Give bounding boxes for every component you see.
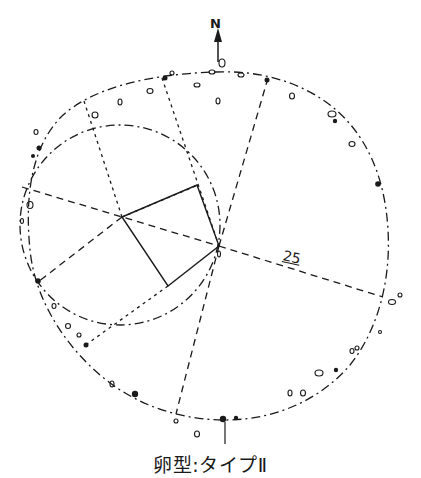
distance-label: 25 [282,247,303,266]
outer-outline [28,72,388,420]
figure-caption: 卵型:タイプⅡ [0,450,421,477]
quadrilateral [122,185,219,286]
radial-lines [22,78,383,414]
inner-circle [20,125,220,325]
stone-circle-plan [0,0,421,450]
north-label: N [210,16,221,31]
open-stones [21,59,403,437]
filled-stones [31,76,381,423]
